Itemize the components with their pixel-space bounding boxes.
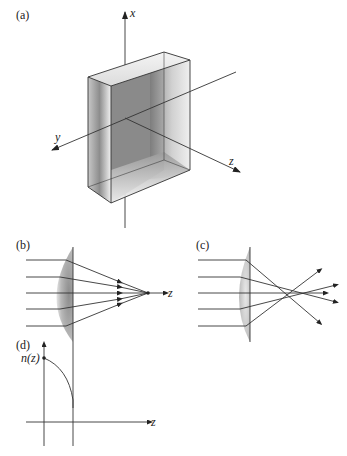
rays-b — [26, 260, 166, 326]
rays-c — [198, 260, 336, 326]
panel-b: (b) z — [16, 238, 173, 342]
figure: (a) x y z (b) — [0, 0, 347, 456]
panel-d: (d) z n(z) — [16, 338, 156, 446]
x-axis-label: x — [129, 6, 136, 20]
lens-c — [239, 247, 250, 342]
z-axis-label-d: z — [150, 415, 156, 429]
y-axis-label: y — [54, 130, 61, 144]
lens-b — [57, 247, 74, 342]
n-profile-curve — [44, 358, 73, 408]
panel-label-a: (a) — [16, 8, 29, 22]
n-of-z-label: n(z) — [21, 351, 40, 365]
z-axis-label-b: z — [167, 286, 173, 300]
panel-c: (c) — [196, 238, 336, 342]
z-axis-label: z — [228, 154, 234, 168]
panel-label-c: (c) — [196, 238, 209, 252]
panel-label-b: (b) — [16, 238, 30, 252]
panel-label-d: (d) — [16, 338, 30, 352]
panel-a: (a) x y z — [16, 6, 240, 228]
